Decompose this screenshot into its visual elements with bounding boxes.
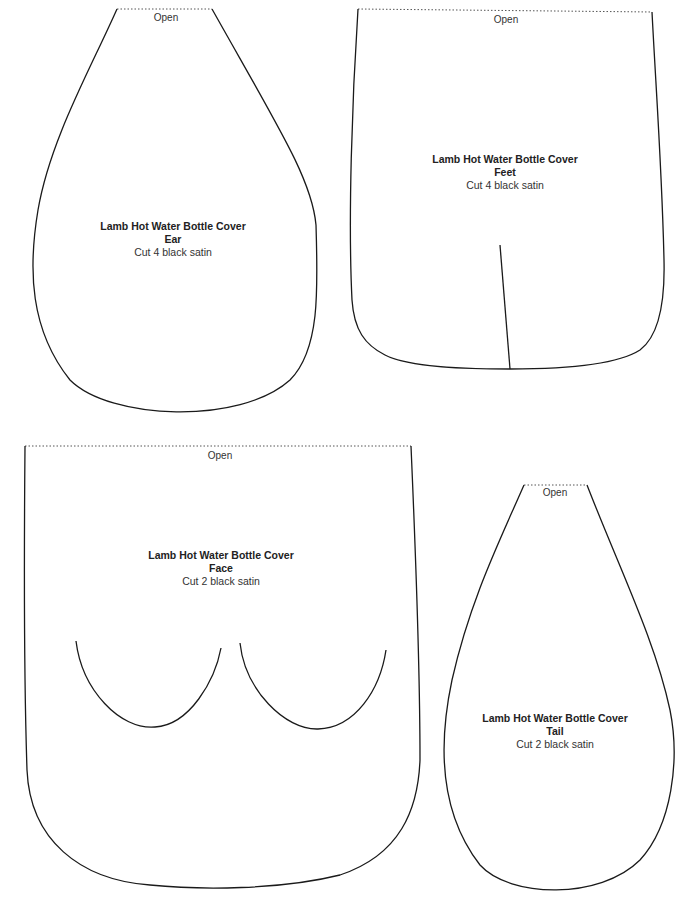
feet-open-edge [358, 9, 652, 12]
tail-title: Lamb Hot Water Bottle Cover [482, 712, 627, 725]
face-left-eye-curve [76, 641, 221, 727]
tail-label-block: Lamb Hot Water Bottle Cover Tail Cut 2 b… [482, 712, 627, 751]
face-cut-instructions: Cut 2 black satin [148, 575, 293, 588]
ear-label-block: Lamb Hot Water Bottle Cover Ear Cut 4 bl… [100, 220, 245, 259]
ear-part-name: Ear [100, 233, 245, 246]
face-open-label: Open [208, 450, 232, 461]
ear-title: Lamb Hot Water Bottle Cover [100, 220, 245, 233]
feet-open-label: Open [494, 14, 518, 25]
face-right-eye-curve [240, 643, 386, 729]
feet-title: Lamb Hot Water Bottle Cover [432, 153, 577, 166]
ear-cut-instructions: Cut 4 black satin [100, 246, 245, 259]
feet-divider-line [500, 245, 510, 369]
face-part-name: Face [148, 562, 293, 575]
ear-open-label: Open [154, 12, 178, 23]
face-curve [24, 446, 420, 888]
face-piece-outline [24, 446, 420, 888]
face-title: Lamb Hot Water Bottle Cover [148, 549, 293, 562]
tail-open-label: Open [543, 487, 567, 498]
pattern-outlines [0, 0, 682, 912]
ear-curve [33, 9, 317, 412]
tail-piece-outline [444, 485, 674, 890]
feet-cut-instructions: Cut 4 black satin [432, 179, 577, 192]
tail-cut-instructions: Cut 2 black satin [482, 738, 627, 751]
tail-part-name: Tail [482, 725, 627, 738]
feet-part-name: Feet [432, 166, 577, 179]
feet-label-block: Lamb Hot Water Bottle Cover Feet Cut 4 b… [432, 153, 577, 192]
face-label-block: Lamb Hot Water Bottle Cover Face Cut 2 b… [148, 549, 293, 588]
tail-curve [444, 485, 674, 890]
ear-piece-outline [33, 9, 317, 412]
